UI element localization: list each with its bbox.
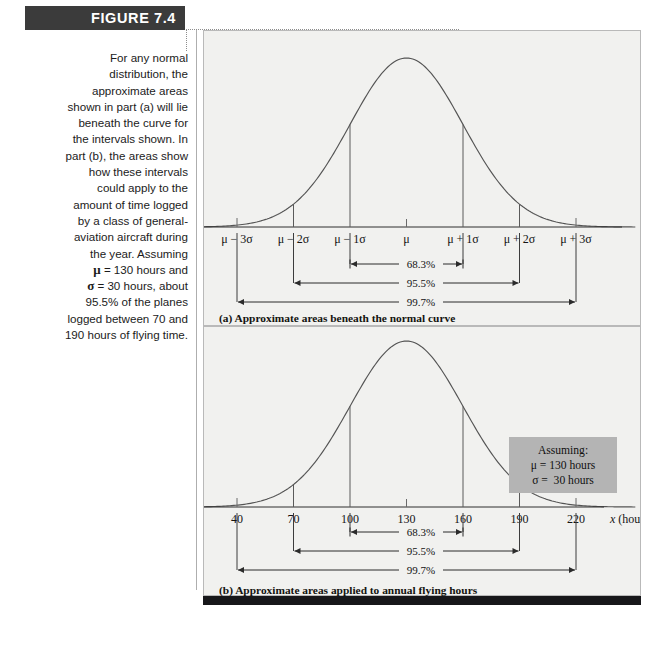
arrow-head-right — [456, 529, 462, 535]
arrow-head-right — [513, 548, 519, 554]
x-tick-label: μ — [403, 232, 409, 246]
arrow-head-right — [569, 567, 575, 573]
caption-line: 95.5% of the planes — [18, 294, 188, 310]
arrow-head-left — [238, 567, 244, 573]
figure-number-banner: FIGURE 7.4 — [25, 6, 185, 30]
subcaption-b: (b) Approximate areas applied to annual … — [219, 584, 477, 596]
figure-caption: For any normaldistribution, theapproxima… — [18, 50, 188, 343]
interval-percent-label: 95.5% — [407, 545, 435, 557]
figure-bottom-bar — [203, 596, 641, 605]
assuming-sigma: σ = 30 hours — [532, 473, 594, 488]
caption-line: beneath the curve for — [18, 115, 188, 131]
caption-line: the year. Assuming — [18, 246, 188, 262]
dotted-connector-vertical — [186, 29, 187, 51]
greek-symbol: σ — [87, 278, 94, 293]
caption-line: logged between 70 and — [18, 311, 188, 327]
arrow-head-right — [513, 280, 519, 286]
interval-percent-label: 68.3% — [407, 258, 435, 270]
caption-line: μ = 130 hours and — [18, 262, 188, 278]
x-tick-label: 130 — [398, 512, 416, 526]
caption-line: distribution, the — [18, 66, 188, 82]
assuming-title: Assuming: — [538, 443, 588, 458]
x-axis-title: x (hours) — [609, 512, 640, 526]
arrow-head-left — [295, 548, 301, 554]
chart-panel-a: μ − 3σμ − 2σμ − 1σμμ + 1σμ + 2σμ + 3σ68.… — [203, 30, 641, 326]
caption-line: For any normal — [18, 50, 188, 66]
assuming-mu: μ = 130 hours — [531, 458, 596, 473]
interval-percent-label: 95.5% — [407, 277, 435, 289]
subcaption-a: (a) Approximate areas beneath the normal… — [219, 312, 455, 324]
arrow-head-left — [351, 261, 357, 267]
figure-7-4: FIGURE 7.4 For any normaldistribution, t… — [0, 0, 648, 655]
arrow-head-left — [238, 299, 244, 305]
caption-line: part (b), the areas show — [18, 148, 188, 164]
assuming-parameters-box: Assuming: μ = 130 hours σ = 30 hours — [509, 437, 617, 493]
caption-line: by a class of general- — [18, 213, 188, 229]
normal-curve — [204, 58, 635, 227]
caption-line: how these intervals — [18, 164, 188, 180]
caption-line: amount of time logged — [18, 197, 188, 213]
interval-percent-label: 99.7% — [407, 564, 435, 576]
arrow-head-left — [351, 529, 357, 535]
caption-line: shown in part (a) will lie — [18, 99, 188, 115]
greek-symbol: μ — [93, 262, 100, 277]
caption-line: 190 hours of flying time. — [18, 327, 188, 343]
interval-percent-label: 68.3% — [407, 526, 435, 538]
caption-line: σ = 30 hours, about — [18, 278, 188, 294]
arrow-head-left — [295, 280, 301, 286]
caption-line: approximate areas — [18, 83, 188, 99]
caption-line: the intervals shown. In — [18, 131, 188, 147]
caption-line: could apply to the — [18, 180, 188, 196]
interval-percent-label: 99.7% — [407, 296, 435, 308]
normal-curve-chart-a: μ − 3σμ − 2σμ − 1σμμ + 1σμ + 2σμ + 3σ68.… — [204, 31, 640, 325]
arrow-head-right — [456, 261, 462, 267]
caption-line: aviation aircraft during — [18, 229, 188, 245]
arrow-head-right — [569, 299, 575, 305]
caption-divider-rule — [196, 30, 197, 590]
figure-number-label: FIGURE 7.4 — [91, 10, 176, 26]
